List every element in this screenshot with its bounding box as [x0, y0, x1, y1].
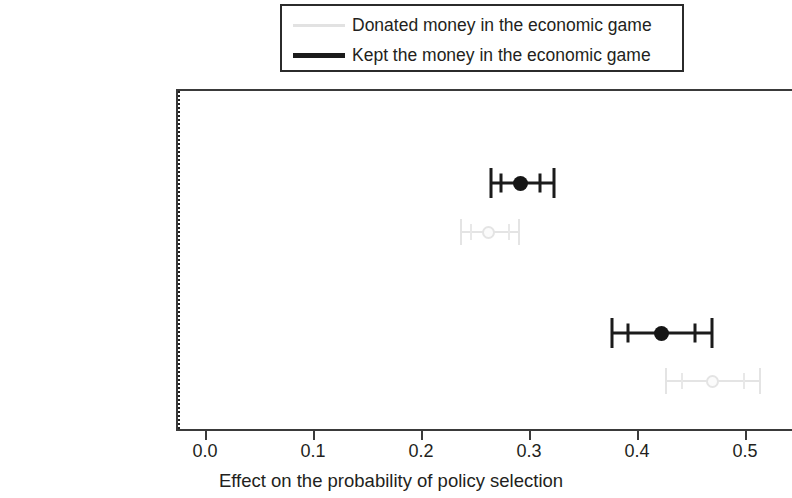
error-bar-cap-outer — [665, 368, 667, 394]
legend-label-donated: Donated money in the economic game — [348, 15, 652, 35]
legend-swatch-kept-icon — [290, 53, 348, 58]
x-axis-tick-label: 0.5 — [732, 441, 757, 462]
error-bar-cap-inner — [694, 324, 697, 343]
x-axis-tick-label: 0.4 — [624, 441, 649, 462]
error-bar-cap-outer — [490, 168, 493, 198]
legend-label-kept: Kept the money in the economic game — [348, 45, 651, 65]
error-bar-cap-outer — [759, 368, 761, 394]
x-axis-tick — [205, 431, 207, 440]
point-estimate-marker — [513, 176, 528, 191]
error-bar-cap-inner — [508, 224, 510, 240]
legend-swatch-donated-icon — [290, 24, 348, 27]
x-axis-tick — [637, 431, 639, 440]
error-bar-cap-outer — [460, 219, 462, 245]
plot-area — [176, 89, 792, 431]
legend-item-kept: Kept the money in the economic game — [290, 40, 674, 70]
x-axis-title: Effect on the probability of policy sele… — [0, 470, 782, 492]
error-bar-cap-inner — [681, 373, 683, 389]
point-estimate-marker — [654, 326, 669, 341]
x-axis-tick — [421, 431, 423, 440]
error-bar-cap-inner — [499, 174, 502, 193]
zero-reference-line — [178, 91, 180, 429]
legend: Donated money in the economic game Kept … — [280, 4, 684, 72]
error-bar-cap-inner — [470, 224, 472, 240]
error-bar-cap-inner — [627, 324, 630, 343]
x-axis-tick — [529, 431, 531, 440]
point-estimate-marker — [482, 226, 495, 239]
legend-item-donated: Donated money in the economic game — [290, 10, 674, 40]
x-axis-tick — [313, 431, 315, 440]
error-bar-cap-inner — [743, 373, 745, 389]
x-axis-tick-label: 0.1 — [300, 441, 325, 462]
point-estimate-marker — [706, 375, 719, 388]
x-axis-tick — [745, 431, 747, 440]
x-axis-tick-label: 0.3 — [516, 441, 541, 462]
x-axis-tick-label: 0.0 — [192, 441, 217, 462]
error-bar-cap-outer — [611, 318, 614, 348]
x-axis-tick-label: 0.2 — [408, 441, 433, 462]
error-bar-cap-outer — [711, 318, 714, 348]
error-bar-cap-outer — [518, 219, 520, 245]
error-bar-cap-outer — [552, 168, 555, 198]
error-bar-cap-inner — [538, 174, 541, 193]
